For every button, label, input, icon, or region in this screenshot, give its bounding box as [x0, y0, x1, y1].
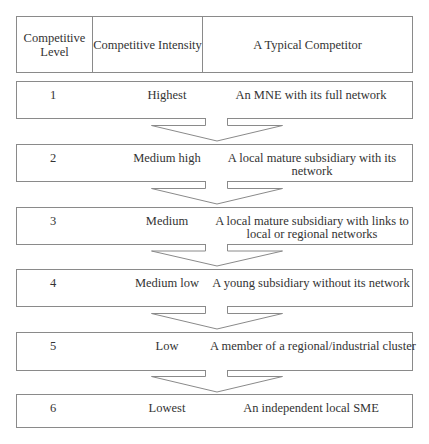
level-row-2: 2 Medium high A local mature subsidiary … — [16, 144, 413, 182]
level-row-4: 4 Medium low A young subsidiary without … — [16, 269, 413, 307]
intensity-label: Medium high — [107, 152, 227, 165]
level-row-3: 3 Medium A local mature subsidiary with … — [16, 207, 413, 245]
competitor-description: A young subsidiary without its network — [205, 277, 417, 290]
header-typical-competitor: A Typical Competitor — [203, 17, 412, 72]
competitor-description: An MNE with its full network — [205, 89, 417, 102]
level-number: 2 — [17, 152, 89, 165]
level-row-1: 1 Highest An MNE with its full network — [16, 81, 413, 119]
level-number: 6 — [17, 402, 89, 415]
competitor-description: A local mature subsidiary with its netwo… — [217, 152, 407, 178]
down-arrow-icon — [152, 118, 283, 141]
level-number: 5 — [17, 340, 89, 353]
level-row-5: 5 Low A member of a regional/industrial … — [16, 332, 413, 371]
level-number: 4 — [17, 277, 89, 290]
down-arrow-icon — [152, 244, 283, 266]
level-row-6: 6 Lowest An independent local SME — [16, 394, 413, 428]
level-number: 1 — [17, 89, 89, 102]
down-arrow-icon — [152, 181, 283, 204]
down-arrow-icon — [152, 306, 283, 329]
competitor-description: A member of a regional/industrial cluste… — [203, 340, 423, 353]
level-number: 3 — [17, 215, 89, 228]
competitor-description: An independent local SME — [205, 402, 417, 415]
header-competitive-intensity: Competitive Intensity — [93, 17, 202, 72]
header-row: Competitive Level Competitive Intensity … — [16, 16, 413, 73]
down-arrow-icon — [152, 370, 283, 392]
competitor-description: A local mature subsidiary with links to … — [207, 215, 417, 241]
header-competitive-level: Competitive Level — [17, 17, 92, 72]
